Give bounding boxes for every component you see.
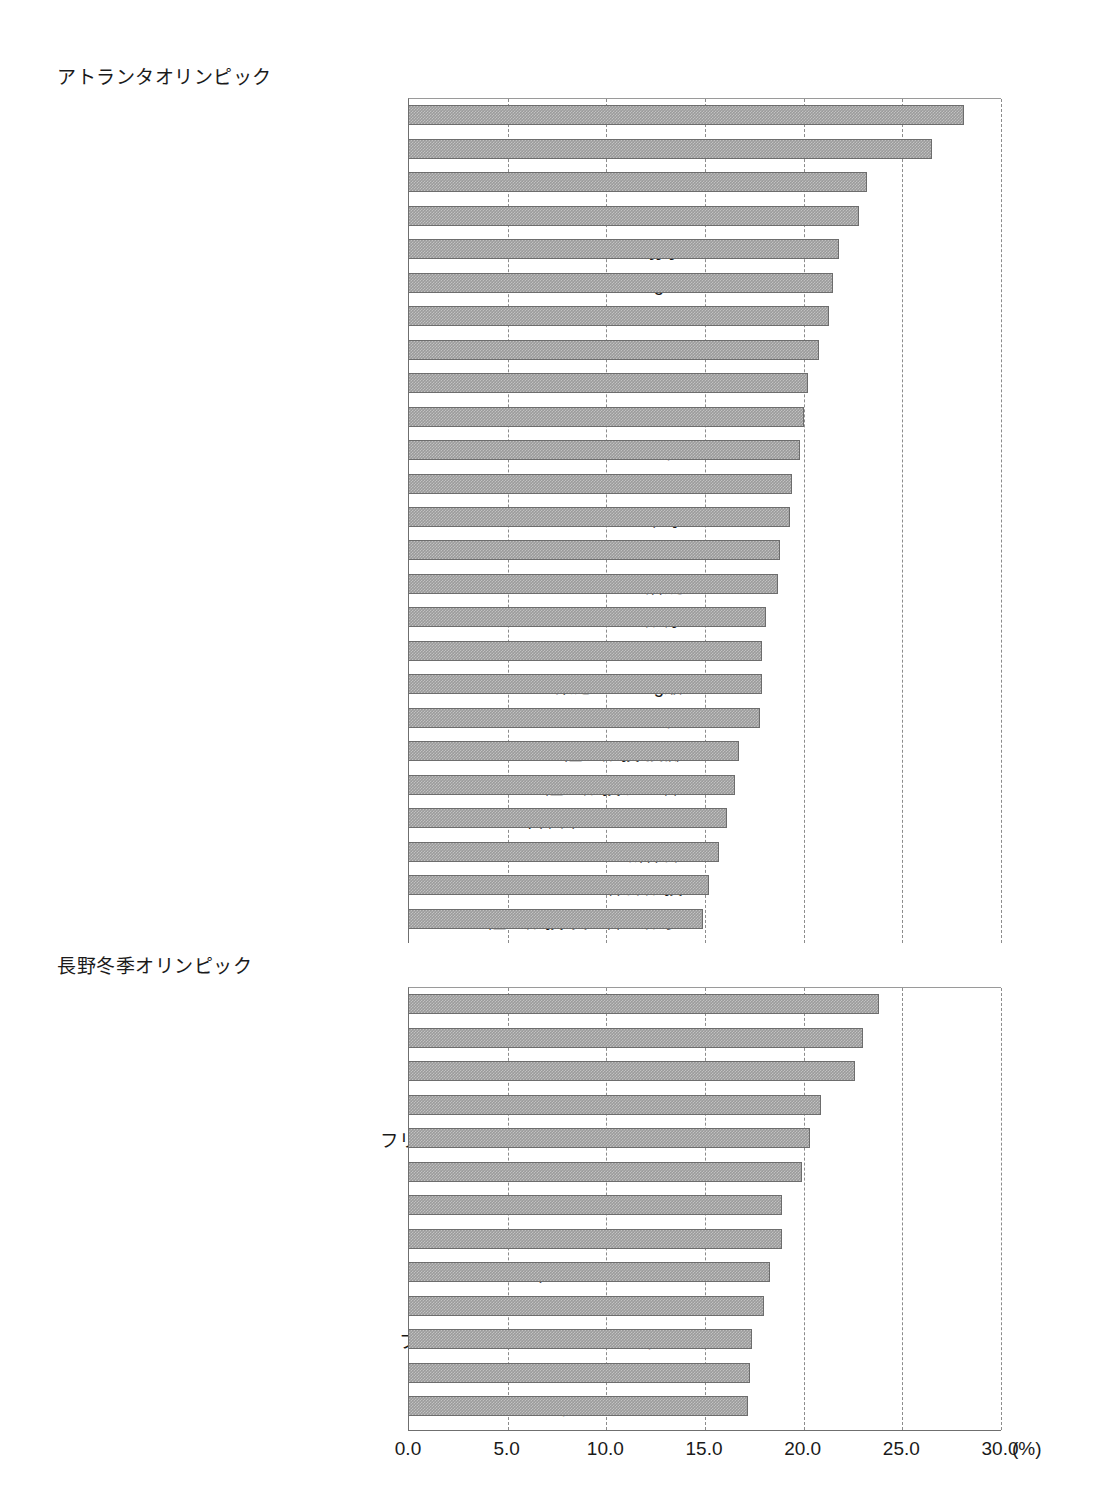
bar-row <box>409 132 1001 165</box>
bar-row <box>409 266 1001 299</box>
bar-row <box>409 99 1001 132</box>
bar-row <box>409 735 1001 768</box>
bar-row <box>409 1155 1001 1188</box>
x-tick-label: 10.0 <box>587 1438 624 1460</box>
bar-nagano-12 <box>409 1396 748 1416</box>
bar-atlanta-5 <box>409 273 833 293</box>
x-axis: 0.05.010.015.020.025.030.0 <box>408 1438 1000 1468</box>
bar-row <box>409 988 1001 1021</box>
bar-nagano-6 <box>409 1195 782 1215</box>
bar-atlanta-6 <box>409 306 829 326</box>
bar-atlanta-23 <box>409 875 709 895</box>
bar-row <box>409 568 1001 601</box>
bar-atlanta-13 <box>409 540 780 560</box>
bar-atlanta-2 <box>409 172 867 192</box>
bar-atlanta-20 <box>409 775 735 795</box>
bar-nagano-3 <box>409 1095 821 1115</box>
bar-atlanta-15 <box>409 607 766 627</box>
bar-chart: アトランタオリンピックアーチェリーヨットソフトボールライフル射撃クレー射撃柔道6… <box>0 0 1102 1501</box>
bar-row <box>409 534 1001 567</box>
bar-row <box>409 1289 1001 1322</box>
bar-row <box>409 835 1001 868</box>
bar-atlanta-14 <box>409 574 778 594</box>
bar-row <box>409 1021 1001 1054</box>
group-title-atlanta: アトランタオリンピック <box>57 62 272 89</box>
bar-row <box>409 601 1001 634</box>
bar-row <box>409 166 1001 199</box>
x-tick-label: 25.0 <box>883 1438 920 1460</box>
bar-row <box>409 1055 1001 1088</box>
bar-row <box>409 199 1001 232</box>
bar-nagano-9 <box>409 1296 764 1316</box>
bar-nagano-8 <box>409 1262 770 1282</box>
bar-atlanta-0 <box>409 105 964 125</box>
bar-row <box>409 902 1001 935</box>
bar-row <box>409 367 1001 400</box>
bar-row <box>409 1390 1001 1423</box>
bar-row <box>409 501 1001 534</box>
x-tick-label: 5.0 <box>493 1438 519 1460</box>
bar-atlanta-19 <box>409 741 739 761</box>
bar-atlanta-7 <box>409 340 819 360</box>
bar-nagano-7 <box>409 1229 782 1249</box>
bar-atlanta-16 <box>409 641 762 661</box>
gridline-30.0 <box>1001 988 1002 1430</box>
bar-row <box>409 635 1001 668</box>
bar-row <box>409 467 1001 500</box>
bar-atlanta-3 <box>409 206 859 226</box>
bar-atlanta-12 <box>409 507 790 527</box>
bar-nagano-2 <box>409 1061 855 1081</box>
bar-atlanta-10 <box>409 440 800 460</box>
bar-row <box>409 768 1001 801</box>
x-tick-label: 15.0 <box>686 1438 723 1460</box>
bar-atlanta-4 <box>409 239 839 259</box>
bar-atlanta-1 <box>409 139 932 159</box>
bar-atlanta-17 <box>409 674 762 694</box>
plot-area-atlanta <box>408 98 1001 943</box>
bar-row <box>409 668 1001 701</box>
x-tick-label: 0.0 <box>395 1438 421 1460</box>
bar-atlanta-9 <box>409 407 804 427</box>
gridline-30.0 <box>1001 99 1002 943</box>
bar-atlanta-22 <box>409 842 719 862</box>
x-tick-label: 20.0 <box>784 1438 821 1460</box>
bar-row <box>409 1323 1001 1356</box>
bar-nagano-1 <box>409 1028 863 1048</box>
bar-atlanta-8 <box>409 373 808 393</box>
bar-row <box>409 802 1001 835</box>
bar-row <box>409 1256 1001 1289</box>
bar-row <box>409 1356 1001 1389</box>
bar-row <box>409 1222 1001 1255</box>
bar-nagano-0 <box>409 994 879 1014</box>
bar-nagano-5 <box>409 1162 802 1182</box>
bar-nagano-4 <box>409 1128 810 1148</box>
bar-row <box>409 434 1001 467</box>
bar-row <box>409 400 1001 433</box>
bar-atlanta-18 <box>409 708 760 728</box>
bar-row <box>409 1122 1001 1155</box>
bar-row <box>409 233 1001 266</box>
bar-row <box>409 701 1001 734</box>
group-title-nagano: 長野冬季オリンピック <box>57 951 252 978</box>
bar-row <box>409 869 1001 902</box>
bar-nagano-11 <box>409 1363 750 1383</box>
bar-row <box>409 333 1001 366</box>
bar-row <box>409 300 1001 333</box>
bar-row <box>409 1088 1001 1121</box>
bar-atlanta-11 <box>409 474 792 494</box>
bar-atlanta-21 <box>409 808 727 828</box>
bar-atlanta-24 <box>409 909 703 929</box>
plot-area-nagano <box>408 987 1001 1431</box>
bar-nagano-10 <box>409 1329 752 1349</box>
x-axis-unit-label: (%) <box>1012 1438 1042 1460</box>
bar-row <box>409 1189 1001 1222</box>
